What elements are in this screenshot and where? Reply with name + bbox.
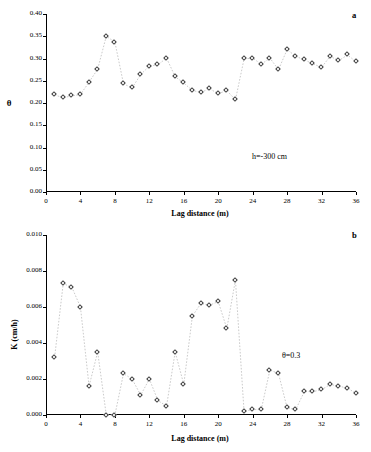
figure-container: a h=-300 cm θ Lag distance (m) 0.000.050… xyxy=(0,0,371,452)
series-connector-line xyxy=(0,0,371,225)
series-connector-line xyxy=(0,225,371,452)
panel-b: b θ=0.3 K (cm/h) Lag distance (m) 0.0000… xyxy=(0,225,371,452)
panel-a: a h=-300 cm θ Lag distance (m) 0.000.050… xyxy=(0,0,371,225)
